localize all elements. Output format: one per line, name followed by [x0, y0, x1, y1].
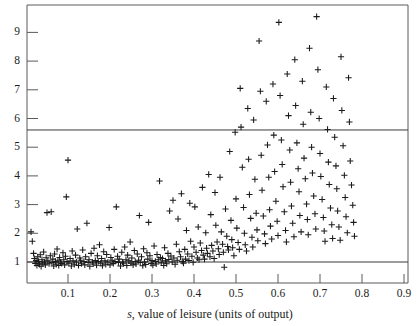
data-point-marker	[240, 204, 246, 210]
data-point-marker	[317, 150, 323, 156]
data-point-marker	[267, 207, 273, 213]
data-point-marker	[258, 152, 264, 158]
data-point-marker	[242, 242, 248, 248]
data-point-marker	[318, 173, 324, 179]
data-point-marker	[167, 208, 173, 214]
data-point-marker	[69, 248, 75, 254]
data-point-marker	[41, 249, 47, 255]
data-point-marker	[329, 222, 335, 228]
data-point-marker	[337, 237, 343, 243]
data-point-marker	[222, 206, 228, 212]
x-axis-title-rest: , value of leisure (units of output)	[132, 307, 293, 321]
data-point-marker	[275, 232, 281, 238]
data-point-marker	[308, 109, 314, 115]
data-point-marker	[266, 174, 272, 180]
data-point-marker	[325, 159, 331, 165]
data-point-marker	[297, 212, 303, 218]
data-point-marker	[131, 247, 137, 253]
data-point-marker	[84, 220, 90, 226]
data-point-marker	[195, 224, 201, 230]
data-point-marker	[251, 117, 257, 123]
data-point-marker	[253, 210, 259, 216]
data-point-marker	[162, 245, 168, 251]
data-point-marker	[300, 121, 306, 127]
data-point-marker	[201, 256, 207, 262]
data-point-marker	[340, 143, 346, 149]
data-point-marker	[250, 244, 256, 250]
data-point-marker	[257, 88, 263, 94]
data-point-marker	[188, 238, 194, 244]
data-point-marker	[236, 246, 242, 252]
data-point-marker	[254, 227, 260, 233]
data-point-marker	[173, 241, 179, 247]
y-tick-label: 9	[4, 26, 20, 38]
data-point-marker	[182, 246, 188, 252]
data-point-marker	[309, 144, 315, 150]
data-point-marker	[294, 140, 300, 146]
data-point-marker	[237, 85, 243, 91]
y-axis-ticks	[27, 32, 38, 262]
data-point-marker	[209, 242, 215, 248]
data-point-marker	[151, 243, 157, 249]
data-point-marker	[208, 212, 214, 218]
data-point-marker	[218, 229, 224, 235]
data-point-marker	[309, 170, 315, 176]
data-point-marker	[249, 234, 255, 240]
data-point-marker	[305, 232, 311, 238]
data-point-marker	[330, 235, 336, 241]
y-tick-label: 8	[4, 55, 20, 67]
data-point-marker	[228, 217, 234, 223]
data-point-marker	[256, 38, 262, 44]
x-tick-label: 0.3	[137, 288, 167, 300]
data-point-marker	[245, 105, 251, 111]
data-point-marker	[96, 242, 102, 248]
data-point-marker	[261, 231, 267, 237]
data-point-marker	[274, 218, 280, 224]
data-point-marker	[74, 226, 80, 232]
y-tick-label: 2	[4, 227, 20, 239]
y-tick-label: 7	[4, 84, 20, 96]
data-point-marker	[335, 208, 341, 214]
data-point-marker	[231, 253, 237, 259]
data-point-marker	[264, 142, 270, 148]
data-point-marker	[323, 84, 329, 90]
data-point-marker	[129, 255, 135, 261]
data-point-marker	[296, 189, 302, 195]
data-point-marker	[342, 194, 348, 200]
data-point-marker	[210, 248, 216, 254]
data-point-marker	[156, 178, 162, 184]
data-point-marker	[334, 186, 340, 192]
data-point-marker	[199, 184, 205, 190]
data-point-marker	[239, 164, 245, 170]
data-point-marker	[187, 200, 193, 206]
data-point-marker	[229, 237, 235, 243]
data-point-marker	[154, 251, 160, 257]
data-point-marker	[203, 230, 209, 236]
data-point-marker	[272, 168, 278, 174]
data-point-marker	[306, 45, 312, 51]
data-point-marker	[113, 204, 119, 210]
data-point-marker	[224, 233, 230, 239]
data-point-marker	[108, 254, 114, 260]
data-point-marker	[197, 240, 203, 246]
x-tick-label: 0.4	[179, 288, 209, 300]
data-point-marker	[284, 71, 290, 77]
data-point-marker	[276, 19, 282, 25]
data-point-marker	[48, 209, 54, 215]
data-point-marker	[176, 249, 182, 255]
data-point-marker	[350, 202, 356, 208]
data-point-marker	[283, 239, 289, 245]
data-point-marker	[295, 166, 301, 172]
data-point-marker	[339, 107, 345, 113]
data-point-marker	[278, 137, 284, 143]
data-point-marker	[304, 216, 310, 222]
data-point-marker	[243, 248, 249, 254]
data-point-marker	[347, 158, 353, 164]
data-point-marker	[291, 234, 297, 240]
data-point-marker	[312, 211, 318, 217]
data-point-marker	[302, 176, 308, 182]
data-point-marker	[104, 251, 110, 257]
data-point-marker	[260, 213, 266, 219]
data-point-marker	[311, 193, 317, 199]
x-tick-label: 0.2	[95, 288, 125, 300]
